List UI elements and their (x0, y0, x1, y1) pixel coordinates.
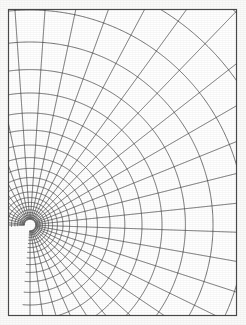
singularity-pole-marker (25, 220, 35, 230)
field-diagram-figure: Orthogonal net of field lines and equipo… (0, 0, 246, 325)
field-diagram-canvas (0, 0, 246, 325)
